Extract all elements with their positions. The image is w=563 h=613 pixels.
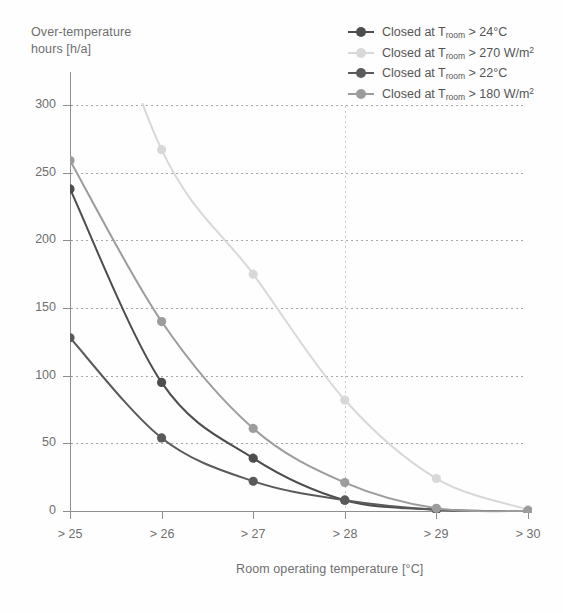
legend-marker-icon [348, 26, 374, 38]
chart-canvas: Over-temperature hours [h/a] 05010015020… [0, 0, 563, 613]
data-point [432, 474, 441, 483]
data-point [157, 145, 166, 154]
data-point [157, 378, 166, 387]
legend-marker-icon [348, 67, 374, 79]
data-point [249, 270, 258, 279]
data-point [157, 433, 166, 442]
legend-item-label: Closed at Troom > 22°C [382, 66, 507, 80]
data-point [249, 454, 258, 463]
legend-marker-icon [348, 88, 374, 100]
legend-item-label: Closed at Troom > 24°C [382, 25, 507, 39]
series-line [70, 338, 528, 511]
series-line [70, 189, 528, 511]
data-point [65, 184, 74, 193]
data-point [65, 333, 74, 342]
data-point [340, 395, 349, 404]
data-point [249, 477, 258, 486]
legend-item-2[interactable]: Closed at Troom > 270 W/m2 [348, 43, 534, 64]
legend-item-1[interactable]: Closed at Troom > 24°C [348, 22, 534, 43]
series-1 [65, 184, 532, 515]
data-point [432, 504, 441, 513]
data-point [523, 506, 532, 515]
legend-item-4[interactable]: Closed at Troom > 180 W/m2 [348, 84, 534, 105]
series-line [70, 160, 528, 511]
legend-item-3[interactable]: Closed at Troom > 22°C [348, 63, 534, 84]
data-point [65, 156, 74, 165]
data-point [340, 478, 349, 487]
legend: Closed at Troom > 24°CClosed at Troom > … [348, 22, 534, 104]
legend-item-label: Closed at Troom > 270 W/m2 [382, 46, 534, 60]
data-point [249, 424, 258, 433]
data-point [340, 496, 349, 505]
x-axis-title: Room operating temperature [°C] [236, 562, 423, 576]
data-point [157, 317, 166, 326]
legend-item-label: Closed at Troom > 180 W/m2 [382, 87, 534, 101]
legend-marker-icon [348, 47, 374, 59]
series-3 [65, 333, 532, 515]
